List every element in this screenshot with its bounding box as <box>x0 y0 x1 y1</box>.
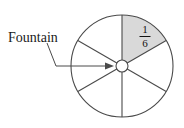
fraction-numerator: 1 <box>142 23 148 35</box>
fountain-hub-circle <box>116 60 128 72</box>
arrowhead-icon <box>105 63 114 70</box>
fountain-sector-figure: Fountain 1 6 <box>0 0 184 128</box>
figure-canvas: Fountain 1 6 <box>0 0 184 128</box>
spoke-lower-left <box>78 69 117 92</box>
spoke-lower-right <box>127 69 166 92</box>
leader-line <box>47 43 110 66</box>
spoke-upper-left <box>78 41 117 64</box>
fountain-label: Fountain <box>8 30 58 45</box>
fraction-denominator: 6 <box>142 37 148 49</box>
